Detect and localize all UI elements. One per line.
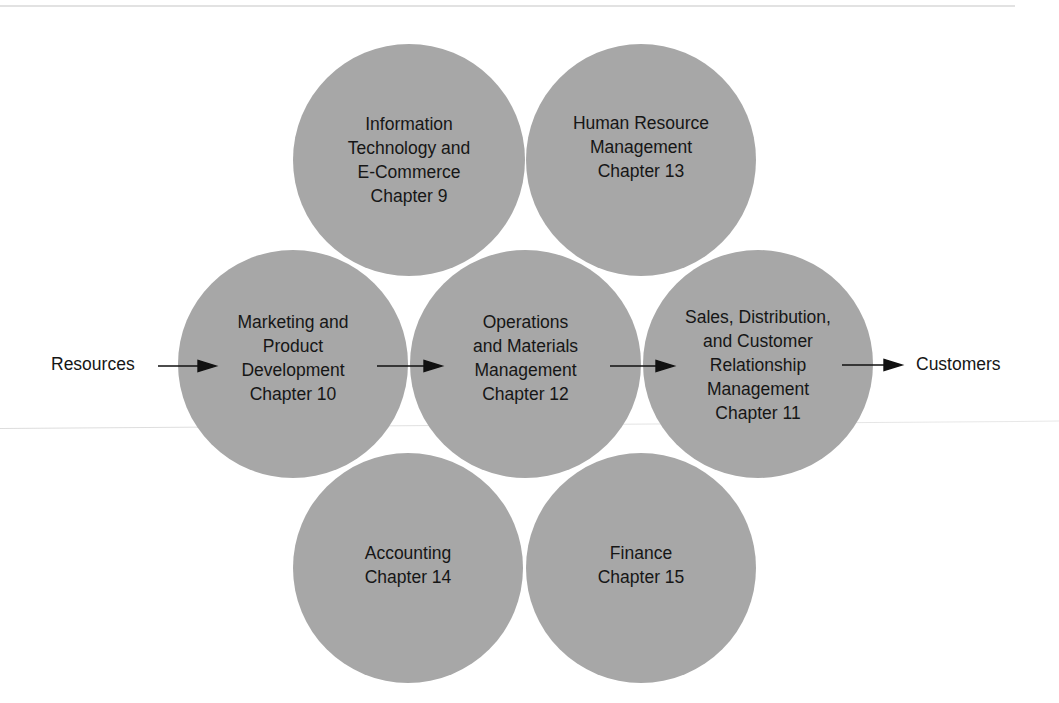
scan-line-top (0, 5, 1015, 7)
node-line: Finance (598, 541, 685, 565)
node-line: Relationship (685, 353, 831, 377)
node-label: Human Resource Management Chapter 13 (573, 111, 709, 183)
customers-label: Customers (916, 354, 1001, 375)
node-line: Management (685, 377, 831, 401)
node-line: Accounting (365, 541, 452, 565)
node-line: Information (348, 112, 471, 136)
node-line: Chapter 9 (348, 184, 471, 208)
node-operations: Operations and Materials Management Chap… (410, 250, 641, 478)
node-label: Marketing and Product Development Chapte… (238, 310, 349, 406)
node-line: Development (238, 358, 349, 382)
node-line: Marketing and (238, 310, 349, 334)
node-human-resource: Human Resource Management Chapter 13 (526, 44, 756, 276)
node-line: Operations (473, 310, 578, 334)
node-information-technology: Information Technology and E-Commerce Ch… (293, 44, 525, 276)
node-line: Management (573, 135, 709, 159)
node-line: Technology and (348, 136, 471, 160)
node-line: Chapter 15 (598, 565, 685, 589)
node-label: Information Technology and E-Commerce Ch… (348, 112, 471, 208)
node-label: Sales, Distribution, and Customer Relati… (685, 305, 831, 425)
node-line: and Materials (473, 334, 578, 358)
node-line: Chapter 14 (365, 565, 452, 589)
node-line: Chapter 11 (685, 401, 831, 425)
node-line: Sales, Distribution, (685, 305, 831, 329)
node-label: Finance Chapter 15 (598, 541, 685, 589)
node-label: Operations and Materials Management Chap… (473, 310, 578, 406)
node-accounting: Accounting Chapter 14 (293, 453, 523, 683)
node-sales-distribution: Sales, Distribution, and Customer Relati… (643, 250, 873, 478)
node-line: Chapter 10 (238, 382, 349, 406)
node-line: Human Resource (573, 111, 709, 135)
node-label: Accounting Chapter 14 (365, 541, 452, 589)
node-line: Product (238, 334, 349, 358)
node-finance: Finance Chapter 15 (526, 453, 756, 683)
node-line: Chapter 13 (573, 159, 709, 183)
node-marketing: Marketing and Product Development Chapte… (178, 250, 408, 478)
resources-label: Resources (51, 354, 135, 375)
node-line: Chapter 12 (473, 382, 578, 406)
node-line: E-Commerce (348, 160, 471, 184)
node-line: and Customer (685, 329, 831, 353)
node-line: Management (473, 358, 578, 382)
